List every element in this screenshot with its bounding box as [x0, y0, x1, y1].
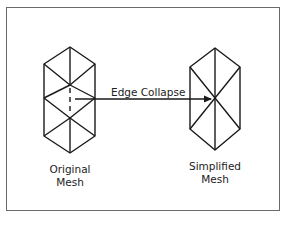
original-mesh-label-line1: Original [30, 163, 110, 176]
original-mesh [44, 47, 95, 153]
simplified-mesh-label-line2: Mesh [175, 173, 255, 186]
original-mesh-label: Original Mesh [30, 163, 110, 189]
edge-collapse-label: Edge Collapse [111, 86, 185, 98]
original-mesh-label-line2: Mesh [30, 176, 110, 189]
simplified-mesh-label: Simplified Mesh [175, 160, 255, 186]
simplified-mesh-label-line1: Simplified [175, 160, 255, 173]
